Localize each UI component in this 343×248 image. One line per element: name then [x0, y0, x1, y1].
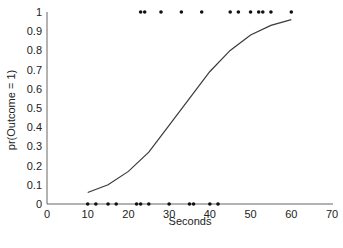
data-point	[188, 202, 192, 206]
y-tick-label: 0.5	[27, 102, 42, 114]
x-tick-label: 50	[244, 208, 256, 220]
logistic-chart: 00.10.20.30.40.50.60.70.80.91 0102030405…	[0, 0, 343, 248]
x-tick-label: 70	[326, 208, 338, 220]
data-point	[257, 10, 261, 14]
data-point	[114, 202, 118, 206]
y-tick-label: 0.6	[27, 83, 42, 95]
data-point	[249, 10, 253, 14]
y-tick-label: 0.9	[27, 25, 42, 37]
data-point	[192, 202, 196, 206]
data-point	[159, 10, 163, 14]
data-points	[86, 10, 293, 206]
data-point	[86, 202, 90, 206]
data-point	[237, 10, 241, 14]
data-point	[200, 10, 204, 14]
y-axis-label: pr(Outcome = 1)	[5, 70, 17, 150]
data-point	[167, 202, 171, 206]
data-point	[289, 10, 293, 14]
y-tick-label: 0.4	[27, 121, 42, 133]
data-point	[106, 202, 110, 206]
data-point	[269, 10, 273, 14]
data-point	[180, 10, 184, 14]
y-tick-label: 0	[36, 198, 42, 210]
data-point	[143, 10, 147, 14]
x-axis-label: Seconds	[169, 215, 212, 227]
y-tick-label: 1	[36, 6, 42, 18]
data-point	[135, 202, 139, 206]
logistic-fit-curve	[88, 20, 292, 193]
y-tick-label: 0.1	[27, 179, 42, 191]
data-point	[208, 202, 212, 206]
x-tick-label: 0	[44, 208, 50, 220]
data-point	[139, 202, 143, 206]
data-point	[139, 10, 143, 14]
data-point	[261, 10, 265, 14]
data-point	[94, 202, 98, 206]
y-tick-label: 0.3	[27, 140, 42, 152]
x-tick-label: 20	[122, 208, 134, 220]
y-tick-label: 0.8	[27, 44, 42, 56]
x-tick-label: 10	[82, 208, 94, 220]
data-point	[216, 202, 220, 206]
y-tick-label: 0.2	[27, 160, 42, 172]
x-tick-label: 60	[285, 208, 297, 220]
data-point	[228, 10, 232, 14]
y-tick-label: 0.7	[27, 64, 42, 76]
data-point	[147, 202, 151, 206]
y-axis-ticks: 00.10.20.30.40.50.60.70.80.91	[27, 6, 42, 210]
